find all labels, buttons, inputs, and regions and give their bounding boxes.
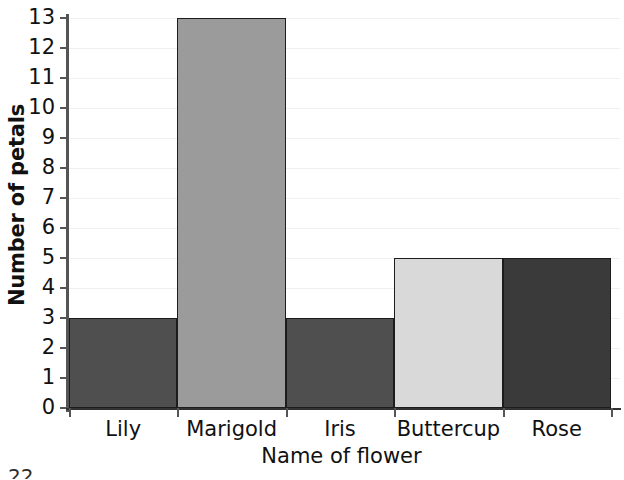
y-tick-label: 12 xyxy=(28,35,55,60)
bar-buttercup xyxy=(394,258,502,408)
y-tick-label: 10 xyxy=(28,95,55,120)
y-tick-label: 2 xyxy=(42,335,55,360)
y-tick-label: 6 xyxy=(42,215,55,240)
bar-series xyxy=(69,0,614,408)
bar-chart: Number of petals 012345678910111213 Lily… xyxy=(0,0,624,480)
y-tick-label: 11 xyxy=(28,65,55,90)
y-tick-label: 5 xyxy=(42,245,55,270)
y-tick-label: 7 xyxy=(42,185,55,210)
y-tick-label: 8 xyxy=(42,155,55,180)
x-axis-title: Name of flower xyxy=(69,443,614,469)
x-axis-label-rose: Rose xyxy=(503,415,611,443)
bar-rose xyxy=(503,258,611,408)
x-axis-label-marigold: Marigold xyxy=(177,415,285,443)
x-axis-labels: LilyMarigoldIrisButtercupRose xyxy=(69,415,614,445)
bar-marigold xyxy=(177,18,285,408)
y-tick-label: 13 xyxy=(28,5,55,30)
bar-iris xyxy=(286,318,394,408)
y-tick-label: 4 xyxy=(42,275,55,300)
y-axis-ticks: 012345678910111213 xyxy=(0,0,68,408)
x-axis-label-buttercup: Buttercup xyxy=(394,415,502,443)
bar-lily xyxy=(69,318,177,408)
y-tick-label: 9 xyxy=(42,125,55,150)
page-number-artifact: 22 xyxy=(8,466,33,479)
y-tick-label: 1 xyxy=(42,365,55,390)
y-tick-label: 3 xyxy=(42,305,55,330)
x-axis-label-lily: Lily xyxy=(69,415,177,443)
x-axis-label-iris: Iris xyxy=(286,415,394,443)
